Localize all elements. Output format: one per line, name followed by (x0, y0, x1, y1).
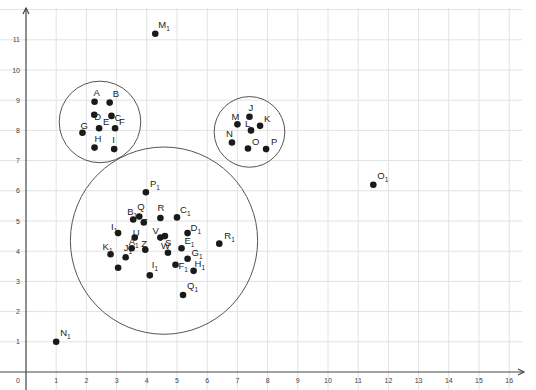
point-label: Z (141, 238, 147, 249)
point-marker (112, 125, 119, 132)
point-label: Q1 (187, 280, 198, 293)
point-label: J (248, 102, 253, 113)
point-label: B (113, 88, 119, 99)
data-point-p: P (263, 136, 278, 152)
point-label: I (112, 134, 115, 145)
point-marker (229, 139, 236, 146)
y-tick-label: 4 (16, 248, 20, 255)
point-marker (111, 146, 118, 153)
data-point-l1 (115, 265, 122, 272)
grid (0, 8, 522, 390)
data-point-n: N (226, 128, 235, 145)
data-point-m1: M1 (152, 19, 170, 37)
y-tick-label: 2 (16, 308, 20, 315)
x-tick-label: 4 (145, 377, 149, 384)
x-tick-label: 14 (445, 377, 453, 384)
point-label: P1 (150, 178, 160, 191)
point-label: P (271, 136, 277, 147)
point-label: F (119, 116, 125, 127)
point-marker (91, 144, 98, 151)
data-points: ABCDEFGHIJKLMNOPM1N1O1P1QRC1B1TI1USD1VA1… (53, 19, 389, 345)
data-point-c1: C1 (174, 204, 191, 220)
point-label: O1 (377, 170, 388, 183)
point-label: N1 (60, 327, 71, 340)
data-point-r: R (157, 202, 164, 221)
point-label: I1 (152, 259, 159, 272)
point-marker (216, 240, 223, 247)
point-marker (257, 123, 264, 130)
x-tick-label: 15 (475, 377, 483, 384)
axes (0, 8, 524, 390)
y-tick-label: 6 (16, 187, 20, 194)
x-tick-label: 11 (355, 377, 362, 384)
point-label: N (226, 128, 233, 139)
x-tick-label: 10 (324, 377, 332, 384)
x-tick-label: 1 (54, 377, 58, 384)
point-marker (152, 30, 159, 37)
data-point-v: V (152, 225, 163, 241)
y-tick-label: 1 (16, 338, 20, 345)
point-marker (115, 265, 122, 272)
point-label: T (142, 216, 148, 227)
data-point-k1: K1 (103, 241, 114, 257)
point-label: A (94, 87, 101, 98)
y-tick-label: 8 (16, 127, 20, 134)
x-tick-label: 7 (235, 377, 239, 384)
point-label: K (264, 113, 271, 124)
data-point-f1: F1 (172, 260, 188, 273)
point-label: D (94, 111, 101, 122)
point-label: D1 (191, 222, 202, 235)
point-marker (91, 98, 98, 105)
y-tick-label: 3 (16, 278, 20, 285)
point-marker (143, 189, 150, 196)
point-label: R1 (224, 230, 235, 243)
data-point-t: T (140, 216, 147, 227)
data-point-b1: B1 (127, 206, 137, 222)
point-label: L (245, 118, 250, 129)
x-tick-label: 9 (296, 377, 300, 384)
scatter-chart: 0123456789101112131415161234567891011 AB… (0, 0, 536, 390)
point-marker (147, 272, 154, 279)
x-tick-label: 12 (385, 377, 393, 384)
data-point-j: J (246, 102, 253, 120)
data-point-h: H (91, 133, 101, 151)
point-label: E (103, 116, 109, 127)
data-point-b: B (106, 88, 119, 106)
x-tick-label: 16 (505, 377, 513, 384)
point-label: O (252, 136, 259, 147)
data-point-i1b: I1 (147, 259, 159, 278)
point-marker (53, 339, 60, 346)
point-marker (106, 99, 113, 106)
y-tick-label: 9 (16, 97, 20, 104)
point-marker (157, 215, 164, 222)
tick-labels: 0123456789101112131415161234567891011 (12, 36, 513, 384)
data-point-m: M (231, 111, 240, 127)
x-tick-label: 6 (205, 377, 209, 384)
point-marker (370, 181, 377, 188)
x-tick-label: 5 (175, 377, 179, 384)
y-tick-label: 5 (16, 218, 20, 225)
point-marker (263, 146, 270, 153)
point-label: R (157, 202, 164, 213)
data-point-w: W (161, 240, 171, 256)
data-point-z: Z (141, 238, 148, 253)
point-marker (184, 255, 191, 262)
point-label: C1 (180, 204, 191, 217)
data-point-o1: O1 (370, 170, 389, 188)
x-tick-label: 2 (84, 377, 88, 384)
point-marker (96, 125, 103, 132)
point-label: M1 (158, 19, 170, 32)
point-label: W (161, 240, 170, 251)
cluster-circle (59, 81, 141, 163)
point-label: G (80, 120, 87, 131)
data-point-r1: R1 (216, 230, 235, 247)
data-point-d: D (91, 111, 101, 122)
origin-label: 0 (16, 377, 20, 384)
point-label: K1 (103, 241, 113, 254)
point-marker (245, 145, 252, 152)
x-tick-label: 8 (266, 377, 270, 384)
data-point-a: A (91, 87, 100, 105)
data-point-h1: H1 (190, 258, 205, 274)
data-point-n1: N1 (53, 327, 71, 345)
data-point-q1: Q1 (180, 280, 199, 298)
